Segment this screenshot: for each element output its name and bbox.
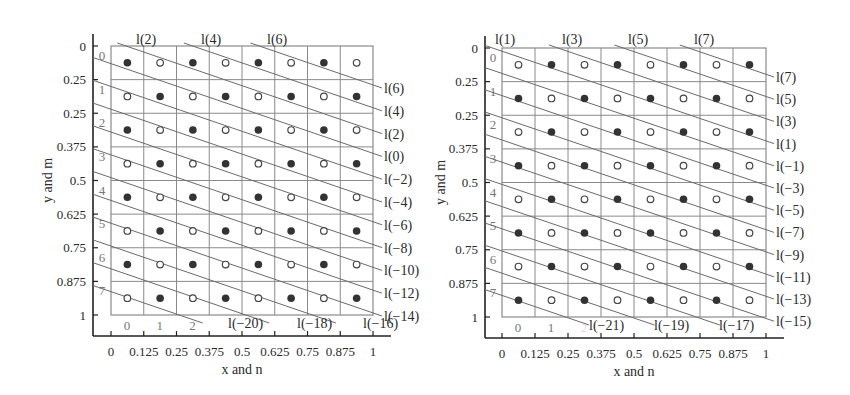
open-dot [353,261,360,268]
row-index-label: 7 [99,283,106,298]
y-tick-label: 1 [80,308,87,323]
line-label: l(−20) [228,316,263,332]
line-label: l(−18) [297,316,332,332]
open-dot [680,230,687,237]
filled-dot [189,59,197,67]
open-dot [647,62,654,69]
filled-dot [680,61,688,69]
open-dot [288,261,295,268]
y-tick-label: 0.875 [57,274,86,289]
filled-dot [222,160,230,168]
filled-dot [515,229,523,237]
open-dot [124,160,131,167]
y-tick-label: 0.5 [70,173,86,188]
x-tick-label: 0.375 [195,344,224,359]
lattice-line [485,68,774,166]
line-label: l(−2) [384,172,412,188]
x-tick-label: 0.625 [260,344,289,359]
filled-dot [713,95,721,103]
open-dot [157,60,164,67]
open-dot [190,228,197,235]
open-dot [614,162,621,169]
filled-dot [515,162,523,170]
filled-dot [746,263,754,271]
x-tick-label: 1 [370,344,377,359]
line-label: l(6) [267,32,288,48]
filled-dot [680,128,688,136]
open-dot [353,60,360,67]
cell-grid [502,48,766,317]
x-tick-label: 0.25 [165,344,188,359]
line-label: l(4) [201,32,222,48]
open-dot [680,95,687,102]
line-label: l(−6) [384,218,412,234]
y-tick-label: 0.375 [449,141,478,156]
filled-dot [156,294,164,302]
open-dot [713,129,720,136]
filled-dot [255,261,263,269]
line-label: l(−9) [776,248,804,264]
line-label: l(−12) [384,286,419,302]
lattice-line [485,290,589,325]
axes: 000.250.1250.250.250.3750.3750.50.50.625… [40,34,391,377]
open-dot [746,297,753,304]
open-dot [222,194,229,201]
open-dot [647,196,654,203]
open-dot [614,297,621,304]
filled-dot [353,93,361,101]
open-dot [713,62,720,69]
filled-dot [320,59,328,67]
open-dot [548,95,555,102]
open-dot [548,297,555,304]
line-label: l(1) [495,32,516,48]
filled-dot [680,196,688,204]
lattice-line [485,90,774,188]
open-dot [353,127,360,134]
open-dot [647,263,654,270]
x-axis-label: x and n [221,362,262,377]
filled-dot [189,126,197,134]
y-tick-label: 0.75 [63,240,86,255]
open-dot [581,129,588,136]
open-dot [321,93,328,100]
open-dot [680,297,687,304]
lattice-line [184,43,382,111]
open-dot [288,194,295,201]
open-dot [288,127,295,134]
open-dot [515,196,522,203]
filled-dot [581,229,589,237]
filled-dot [222,227,230,235]
lattice-line [93,149,382,248]
filled-dot [647,95,655,103]
line-label: l(−16) [363,316,398,332]
line-label: l(0) [384,149,405,165]
filled-dot [581,296,589,304]
lattice-line [93,171,382,270]
open-dot [614,230,621,237]
x-tick-label: 0.375 [586,346,615,361]
open-dot [288,60,295,67]
filled-dot [189,261,197,269]
open-dot [157,127,164,134]
y-axis-label: y and m [433,160,448,205]
row-index-label: 4 [490,185,497,200]
col-index-label: 1 [548,320,555,335]
filled-dot [287,160,295,168]
right-panel: 000.250.1250.250.250.3750.3750.50.50.625… [433,32,811,379]
line-label: l(−10) [384,263,419,279]
filled-dot [614,61,622,69]
open-dot [190,93,197,100]
lattice-line [485,223,774,321]
x-tick-label: 0.75 [296,344,319,359]
filled-dot [222,294,230,302]
filled-dot [156,227,164,235]
filled-dot [581,162,589,170]
lattice-line [485,45,774,143]
col-index-label: 1 [157,318,164,333]
open-dot [222,60,229,67]
lattice-line [485,112,774,210]
filled-dot [255,126,263,134]
open-dot [353,194,360,201]
open-dot [190,160,197,167]
open-dot [581,62,588,69]
